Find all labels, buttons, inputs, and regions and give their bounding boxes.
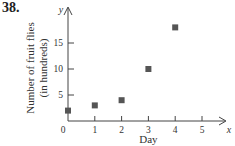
scatter-chart: 01234551015 xyDayNumber of fruit flies(i… — [0, 0, 235, 146]
axes — [64, 7, 226, 125]
data-point-marker — [145, 66, 151, 72]
y-tick-label: 5 — [58, 90, 63, 100]
data-points — [65, 24, 178, 113]
y-tick-label: 10 — [54, 64, 64, 74]
axis-labels: xyDayNumber of fruit flies(in hundreds) — [24, 4, 232, 145]
x-axis-label: Day — [139, 133, 158, 145]
ticks: 01234551015 — [54, 38, 205, 135]
y-tick-label: 15 — [54, 38, 64, 48]
x-axis-name: x — [226, 124, 232, 135]
x-tick-label: 2 — [119, 125, 124, 135]
x-tick-label: 1 — [92, 125, 97, 135]
y-axis-label: Number of fruit flies(in hundreds) — [24, 22, 50, 113]
data-point-marker — [92, 102, 98, 108]
x-tick-label: 5 — [200, 125, 205, 135]
y-axis-label-line: Number of fruit flies — [24, 22, 36, 113]
y-axis-name: y — [58, 4, 64, 15]
data-point-marker — [119, 97, 125, 103]
data-point-marker — [65, 108, 71, 114]
x-tick-label: 4 — [173, 125, 178, 135]
x-tick-label: 0 — [61, 125, 66, 135]
y-axis-label-line: (in hundreds) — [37, 38, 50, 97]
data-point-marker — [172, 24, 178, 30]
